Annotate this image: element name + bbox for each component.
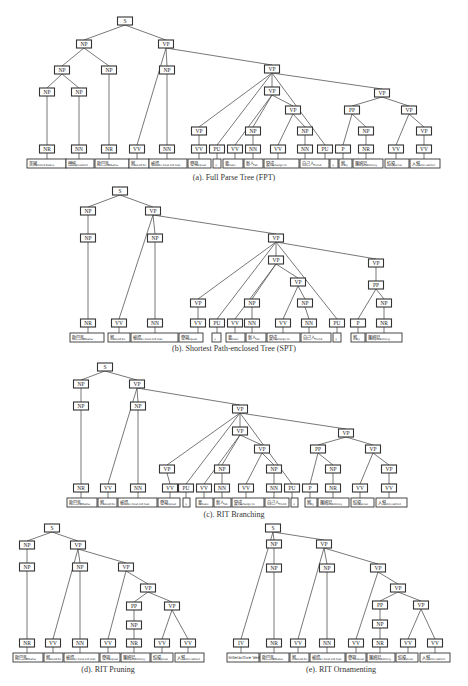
tree-node-vv: VV: [46, 639, 61, 647]
leaf-word: ，: [330, 159, 338, 168]
tree-node-vv: VV: [271, 145, 286, 153]
tree-edge: [137, 388, 138, 402]
tree-node-nr: NR: [359, 145, 374, 153]
tree-node-pu: PU: [210, 319, 225, 327]
svg-text:VP: VP: [194, 300, 201, 306]
svg-text:VV: VV: [274, 146, 282, 152]
svg-text:NP: NP: [77, 403, 84, 409]
tree-node-vp: VP: [391, 584, 406, 592]
tree-node-np: NP: [245, 299, 260, 307]
svg-text:NP: NP: [376, 621, 383, 627]
leaf-word: 發現repeat: [179, 333, 203, 342]
tree-edge: [396, 114, 409, 145]
tree-node-np: NP: [20, 563, 35, 571]
svg-text:NR: NR: [105, 146, 113, 152]
leaf-word: 入幫into cabinet: [376, 498, 407, 507]
tree-node-s: S: [118, 17, 133, 25]
tree-edge: [398, 592, 421, 601]
leaf-word: 將would be: [44, 653, 63, 662]
tree-node-pp: PP: [369, 281, 384, 289]
svg-text:NP: NP: [380, 300, 387, 306]
tree-node-nn: NN: [131, 484, 146, 492]
svg-text:VP: VP: [394, 585, 401, 591]
tree-node-np: NP: [326, 465, 341, 473]
svg-text:VP: VP: [236, 406, 243, 412]
tree-node-vp: VP: [165, 602, 180, 610]
leaf-word: 將would be: [290, 653, 309, 662]
tree-node-vp: VP: [119, 563, 134, 571]
tree-node-nn: NN: [72, 145, 87, 153]
tree-edge: [125, 25, 166, 40]
svg-text:VV: VV: [231, 320, 239, 326]
svg-text:NR: NR: [376, 640, 384, 646]
svg-text:NN: NN: [75, 146, 83, 152]
tree-node-nr: NR: [377, 319, 392, 327]
tree-node-vp: VP: [269, 234, 284, 242]
tree-edge: [120, 195, 153, 207]
tree-edge: [167, 473, 170, 484]
tree-node-pp: PP: [345, 106, 360, 114]
tree-node-nr: NR: [74, 484, 89, 492]
tree-edge: [108, 571, 126, 639]
leaf-word: 歐巴馬Obama: [70, 333, 104, 342]
tree-node-nn: NN: [320, 639, 335, 647]
tree-node-vv: VV: [163, 484, 178, 492]
svg-text:VP: VP: [195, 128, 202, 134]
tree-edge: [167, 413, 240, 465]
svg-text:VV: VV: [166, 485, 174, 491]
svg-text:NP: NP: [301, 300, 308, 306]
tree-node-nr: NR: [40, 145, 55, 153]
svg-text:PP: PP: [373, 282, 379, 288]
tree-edge: [27, 532, 52, 541]
tree-node-vp: VP: [192, 127, 207, 135]
svg-text:VV: VV: [184, 640, 192, 646]
leaf-word: 將would be: [98, 498, 117, 507]
tree-node-pu: PU: [330, 319, 345, 327]
svg-text:IV: IV: [238, 640, 244, 646]
svg-text:NP: NP: [105, 67, 112, 73]
svg-text:VP: VP: [294, 279, 301, 285]
leaf-word: ，: [183, 498, 190, 507]
svg-text:NN: NN: [218, 485, 226, 491]
leaf-word: 要make: [226, 333, 245, 342]
tree-edge: [378, 572, 398, 584]
svg-text:VV: VV: [200, 485, 208, 491]
leaf-word: 羅姆尼Romney: [367, 653, 395, 662]
svg-text:NP: NP: [270, 565, 277, 571]
tree-node-vp: VP: [255, 445, 270, 453]
svg-text:VP: VP: [163, 466, 170, 472]
leaf-word: 羅姆尼Romney: [121, 653, 150, 662]
leaf-word: 歐巴馬Obama: [260, 653, 289, 662]
tree-edge: [172, 610, 188, 639]
svg-text:NN: NN: [248, 320, 256, 326]
tree-node-np: NP: [40, 88, 55, 96]
tree-edge: [119, 215, 153, 319]
tree-node-np: NP: [267, 465, 282, 473]
leaf-word: 要make: [223, 159, 243, 168]
svg-text:VP: VP: [369, 446, 376, 452]
svg-text:NP: NP: [80, 41, 87, 47]
svg-text:NR: NR: [23, 640, 31, 646]
svg-text:P: P: [308, 485, 311, 491]
tree-edge: [153, 215, 155, 234]
tree-node-np: NP: [320, 564, 335, 572]
svg-text:NP: NP: [323, 565, 330, 571]
panel-caption: (a). Full Parse Tree (FPT): [193, 173, 276, 182]
tree-edge: [352, 114, 366, 127]
svg-text:NP: NP: [248, 300, 255, 306]
tree-node-vp: VP: [265, 87, 280, 95]
svg-text:NP: NP: [77, 381, 84, 387]
svg-text:PU: PU: [182, 485, 189, 491]
tree-edge: [52, 532, 78, 541]
svg-text:S: S: [123, 18, 126, 24]
tree-edge: [84, 48, 109, 66]
tree-panel-b: SNPVPNPNPVPVPVPVPVPNPPPNPNPNRVVNNVVPUVVN…: [70, 187, 402, 353]
svg-text:VP: VP: [133, 381, 140, 387]
tree-node-np: NP: [131, 402, 146, 410]
tree-node-vv: VV: [417, 145, 432, 153]
leaf-word: ，: [213, 159, 221, 168]
tree-edge: [246, 453, 262, 484]
leaf-word: ，: [212, 333, 221, 342]
leaf-word: ，: [291, 498, 298, 507]
tree-node-vv: VV: [428, 639, 443, 647]
